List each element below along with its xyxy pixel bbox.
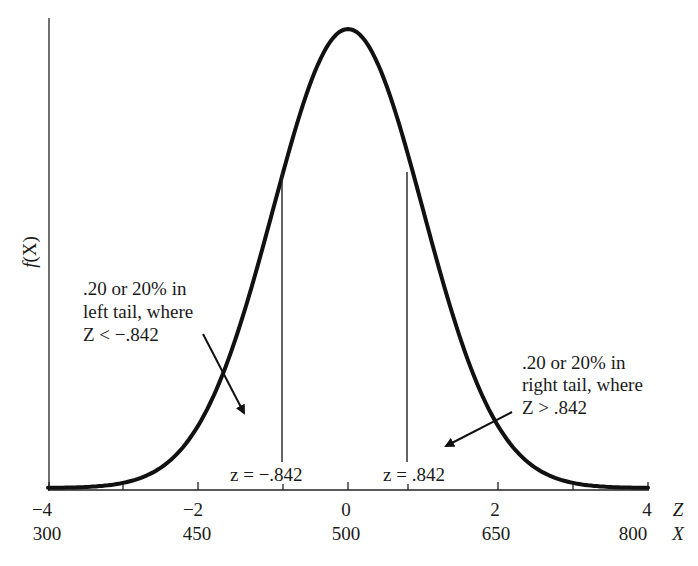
svg-text:500: 500 (332, 523, 361, 544)
left-critical-label: z = −.842 (230, 464, 303, 485)
svg-text:650: 650 (482, 523, 511, 544)
right-tail-annotation: .20 or 20% in right tail, where Z > .842 (522, 352, 643, 418)
svg-text:−2: −2 (183, 499, 203, 520)
x-axis-label: X (671, 523, 685, 544)
svg-text:450: 450 (183, 523, 212, 544)
right-annotation-line-3: Z > .842 (522, 397, 587, 418)
right-annotation-line-2: right tail, where (522, 374, 643, 395)
y-axis-label: f(X) (19, 236, 41, 268)
svg-text:2: 2 (490, 499, 500, 520)
left-annotation-line-3: Z < −.842 (83, 324, 159, 345)
left-tail-annotation: .20 or 20% in left tail, where Z < −.842 (83, 278, 193, 345)
z-tick-labels: −4 −2 0 2 4 Z (32, 499, 684, 520)
svg-text:4: 4 (642, 499, 652, 520)
normal-curve (48, 29, 648, 488)
x-axis-ticks (49, 482, 648, 490)
svg-text:300: 300 (33, 523, 62, 544)
left-annotation-line-2: left tail, where (83, 301, 193, 322)
x-tick-labels: 300 450 500 650 800 X (33, 523, 685, 544)
svg-text:−4: −4 (32, 499, 53, 520)
normal-distribution-diagram: f(X) .20 or 20% in left tail, where Z < … (0, 0, 698, 566)
left-annotation-line-1: .20 or 20% in (83, 278, 187, 299)
right-critical-label: z = .842 (383, 464, 445, 485)
right-annotation-line-1: .20 or 20% in (522, 352, 626, 373)
z-axis-label: Z (673, 499, 684, 520)
svg-text:0: 0 (341, 499, 351, 520)
svg-text:800: 800 (619, 523, 648, 544)
